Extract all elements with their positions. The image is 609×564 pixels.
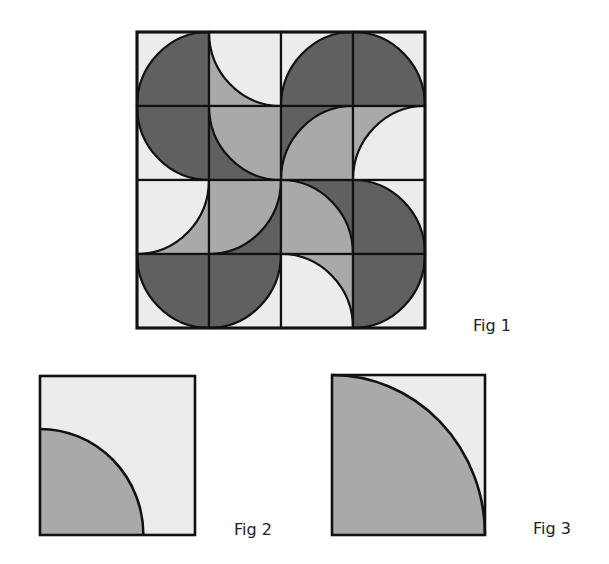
fig1-tile-grid bbox=[137, 32, 425, 328]
fig2-label: Fig 2 bbox=[234, 520, 272, 539]
fig1-tile-r1-c2 bbox=[281, 106, 353, 180]
fig1-tile-r3-c1 bbox=[209, 254, 281, 328]
figure-canvas bbox=[0, 0, 609, 564]
fig2-single-tile bbox=[40, 376, 195, 535]
fig3-single-tile bbox=[332, 375, 485, 535]
fig1-tile-r2-c1 bbox=[209, 180, 281, 254]
fig1-tile-r3-c3 bbox=[353, 254, 425, 328]
fig3-tile bbox=[332, 375, 485, 535]
fig1-tile-r1-c3 bbox=[353, 106, 425, 180]
fig1-tile-r2-c2 bbox=[281, 180, 353, 254]
fig1-tile-r0-c3 bbox=[353, 32, 425, 106]
fig1-tile-r3-c2 bbox=[281, 254, 353, 328]
fig1-tile-r0-c1 bbox=[209, 32, 281, 106]
fig1-tile-r0-c0 bbox=[137, 32, 209, 106]
fig1-label: Fig 1 bbox=[473, 316, 511, 335]
fig1-tile-r1-c1 bbox=[209, 106, 281, 180]
fig3-label: Fig 3 bbox=[533, 519, 571, 538]
fig1-tile-r2-c3 bbox=[353, 180, 425, 254]
fig2-tile bbox=[40, 376, 195, 535]
fig1-tile-r0-c2 bbox=[281, 32, 353, 106]
fig1-tile-r2-c0 bbox=[137, 180, 209, 254]
fig1-tile-r3-c0 bbox=[137, 254, 209, 328]
fig1-tile-r1-c0 bbox=[137, 106, 209, 180]
